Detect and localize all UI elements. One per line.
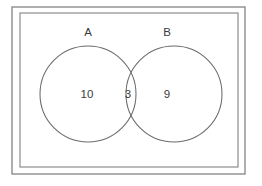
set-b-label: B: [163, 26, 171, 38]
set-a-label: A: [84, 26, 92, 38]
venn-diagram-figure: A B 10 3 9: [0, 0, 262, 186]
set-a-only-count: 10: [81, 88, 94, 100]
intersection-count: 3: [125, 88, 131, 100]
venn-diagram-canvas: A B 10 3 9: [0, 0, 262, 186]
set-b-circle: [126, 46, 222, 142]
set-b-only-count: 9: [164, 88, 170, 100]
